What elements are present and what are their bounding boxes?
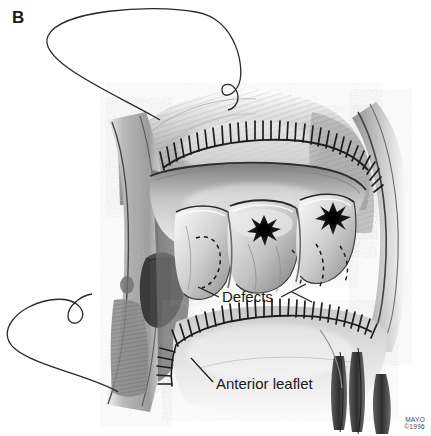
surgical-illustration — [0, 0, 431, 436]
illustration-canvas: B Defects Anterior leaflet MAYO ©1996 — [0, 0, 431, 436]
suture-loop-lower — [7, 294, 118, 392]
cusp-left — [174, 206, 232, 299]
credit-block: MAYO ©1996 — [404, 416, 425, 430]
defects-label: Defects — [222, 288, 273, 305]
credit-year: ©1996 — [404, 423, 425, 430]
cusp-right — [296, 194, 356, 286]
defects-leader-right — [281, 284, 306, 297]
defects-leader-right2 — [292, 292, 312, 302]
cusp-middle — [228, 200, 302, 294]
credit-mayo: MAYO — [404, 416, 425, 423]
panel-label: B — [12, 8, 25, 28]
anterior-leaflet-label: Anterior leaflet — [216, 375, 313, 392]
valve-cusps — [174, 194, 356, 299]
